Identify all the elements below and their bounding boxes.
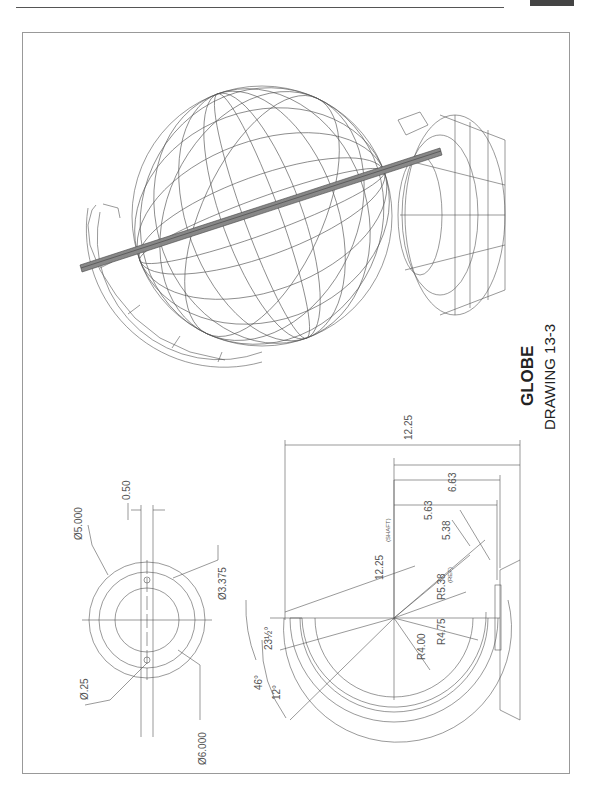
dim-538: 5.38 [441, 520, 452, 540]
dim-hole-025: Ø.25 [79, 678, 90, 700]
front-view [246, 440, 520, 742]
title-block: GLOBE DRAWING 13-3 [518, 324, 558, 430]
dim-r400: R4.00 [416, 633, 427, 660]
dim-563: 5.63 [423, 500, 434, 520]
dim-r475: R4.75 [436, 618, 447, 645]
dim-dia-6000: Ø6.000 [197, 732, 208, 765]
note-ref: (REF) [447, 567, 453, 583]
dim-slot-050: 0.50 [121, 480, 132, 500]
dim-shaft-1225: 12.25 [374, 555, 385, 580]
dim-angle-tilt: 23½° [263, 627, 274, 650]
dim-dia-5000: Ø5.000 [73, 507, 84, 540]
globe-sphere [98, 47, 425, 384]
globe-shaft [80, 148, 442, 272]
dim-r538: R5.38 [436, 573, 447, 600]
front-view-labels: 12.25 6.63 5.63 5.38 12.25 (SHAFT) R5.38… [253, 415, 458, 700]
dim-663: 6.63 [447, 472, 458, 492]
note-shaft: (SHAFT) [385, 518, 391, 542]
drawing-canvas: Ø5.000 0.50 Ø3.375 Ø.25 Ø6.000 [0, 0, 597, 798]
dim-dia-3375: Ø3.375 [217, 567, 228, 600]
stand-base [398, 112, 505, 315]
drawing-title: GLOBE [518, 346, 537, 406]
dim-overall-1225: 12.25 [403, 415, 414, 440]
isometric-view [80, 47, 505, 384]
drawing-number: DRAWING 13-3 [541, 324, 558, 430]
dim-angle-46: 46° [253, 675, 264, 690]
top-view [82, 503, 218, 737]
dim-angle-12: 12° [271, 685, 282, 700]
